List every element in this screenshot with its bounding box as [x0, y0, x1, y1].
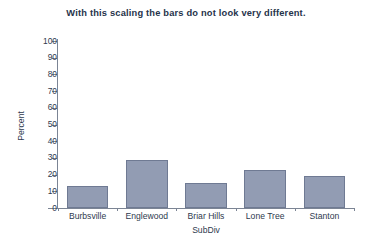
y-tick-label-row: 30	[22, 153, 57, 162]
y-tick-label-row: 100	[22, 37, 57, 46]
y-tick-label: 50	[31, 120, 57, 128]
x-axis-label: Englewood	[117, 211, 176, 221]
y-tick-label: 90	[31, 53, 57, 61]
bar[interactable]	[304, 176, 345, 208]
bar[interactable]	[126, 160, 167, 208]
y-tick-label: 30	[31, 153, 57, 161]
bar-group[interactable]	[67, 41, 108, 208]
y-tick-label: 100	[31, 37, 57, 45]
bar-group[interactable]	[244, 41, 285, 208]
bar-group[interactable]	[185, 41, 226, 208]
y-tick-label: 0	[31, 204, 57, 212]
x-axis-label: Briar Hills	[176, 211, 235, 221]
y-tick-label: 40	[31, 137, 57, 145]
plot-area	[58, 41, 354, 208]
y-tick-label-row: 50	[22, 120, 57, 129]
y-tick-label-row: 20	[22, 170, 57, 179]
y-tick-label: 20	[31, 170, 57, 178]
chart-title: With this scaling the bars do not look v…	[0, 8, 372, 18]
y-tick-label-row: 40	[22, 137, 57, 146]
y-tick-label-row: 80	[22, 70, 57, 79]
x-axis-title: SubDiv	[58, 225, 354, 235]
bar-chart: With this scaling the bars do not look v…	[0, 0, 372, 247]
bar[interactable]	[185, 183, 226, 208]
y-tick-label-row: 60	[22, 103, 57, 112]
bar[interactable]	[244, 170, 285, 208]
x-axis-label: Stanton	[295, 211, 354, 221]
x-axis-line	[48, 208, 354, 209]
y-tick-label-row: 90	[22, 53, 57, 62]
bar-group[interactable]	[304, 41, 345, 208]
y-tick-label-row: 0	[22, 204, 57, 213]
y-tick-label: 70	[31, 87, 57, 95]
x-tick-mark	[354, 208, 355, 211]
x-axis-label: Burbsville	[58, 211, 117, 221]
y-tick-label: 80	[31, 70, 57, 78]
y-tick-label: 10	[31, 187, 57, 195]
bar[interactable]	[67, 186, 108, 208]
y-tick-label-row: 10	[22, 187, 57, 196]
y-tick-label: 60	[31, 103, 57, 111]
x-axis-label: Lone Tree	[236, 211, 295, 221]
y-tick-label-row: 70	[22, 87, 57, 96]
bar-group[interactable]	[126, 41, 167, 208]
